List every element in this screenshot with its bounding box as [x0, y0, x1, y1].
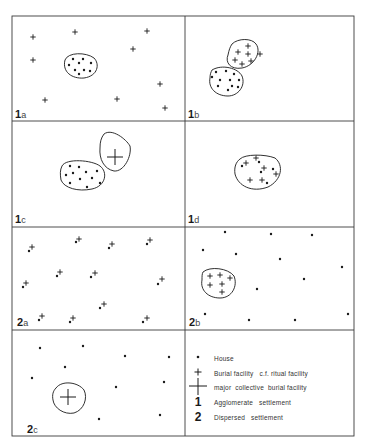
legend-text: House: [214, 355, 234, 362]
panel-2b: [202, 231, 350, 321]
house-dots: [68, 58, 92, 75]
panel-label-2a: 2a: [17, 317, 28, 328]
burial-cluster-boundary: [202, 269, 236, 298]
collective-burial-cross-icon: [189, 378, 207, 395]
panel-2c: [31, 345, 170, 420]
collective-burial-boundary: [53, 383, 86, 413]
collective-burial-cross: [60, 389, 76, 405]
panel-label-1c: 1c: [15, 214, 26, 225]
panel-1c: [60, 132, 130, 190]
legend-text: Burial facility c.f. ritual facility: [214, 370, 308, 377]
panel-1d: [235, 155, 281, 189]
legend-symbols: [189, 356, 207, 395]
panel-1b: [210, 40, 263, 97]
burial-crosses: [207, 272, 232, 294]
panel-2a: [22, 236, 165, 323]
house-dots: [65, 165, 101, 188]
burial-crosses: [30, 28, 167, 110]
legend-item-collective-burial: major collective burial facility: [211, 380, 307, 394]
burial-crosses: [232, 43, 262, 66]
panel-label-1a: 1a: [15, 109, 26, 120]
burial-cross-icon: [195, 369, 202, 376]
legend-item-house: House: [211, 351, 234, 365]
legend-text: major collective burial facility: [214, 384, 307, 391]
panel-1a: [30, 28, 167, 110]
house-dots: [31, 345, 170, 420]
panel-label-2b: 2b: [189, 317, 200, 328]
numeral-2: 2: [193, 410, 203, 424]
panel-label-1b: 1b: [188, 109, 199, 120]
legend-item-agglomerate: 1 Agglomerate settlement: [193, 395, 291, 409]
house-dots: [202, 231, 349, 321]
collective-burial-cross: [107, 149, 123, 165]
mixed-settlement-boundary: [235, 155, 281, 189]
legend-text: Dispersed settlement: [214, 414, 283, 421]
panel-label-1d: 1d: [188, 214, 199, 225]
legend-item-dispersed: 2 Dispersed settlement: [193, 410, 283, 424]
house-dot-icon: [197, 356, 200, 359]
legend-text: Agglomerate settlement: [214, 399, 291, 406]
legend-item-burial: Burial facility c.f. ritual facility: [211, 366, 308, 380]
panel-label-2c: 2c: [27, 424, 38, 435]
numeral-1: 1: [193, 395, 203, 409]
diagram-canvas: [0, 0, 367, 445]
house-dots: [211, 70, 240, 91]
house-burial-pairs: [22, 236, 165, 323]
settlement-burial-diagram: 1a 1b 1c 1d 2a 2b 2c House Burial facili…: [0, 0, 367, 445]
